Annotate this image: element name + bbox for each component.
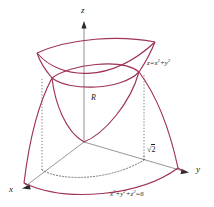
paraboloid-eq-term2-exp: 2 [168,58,170,63]
sphere-bottom-rim-arc [24,168,178,194]
sphere-right-outer-meridian [139,72,178,168]
math-figure: z x y R z=x2+y2 √2 x2+y2+z2=6 [0,0,214,207]
paraboloid-left-branch [52,78,84,142]
sphere-lower-shell-group [24,72,183,194]
y-axis-arrowhead [181,169,189,174]
y-axis-line [84,142,183,171]
sqrt-radicand: 2 [151,144,156,154]
sphere-left-outer-meridian [24,78,52,183]
intersection-circle-front [52,72,139,87]
x-axis-label: x [9,185,13,194]
paraboloid-equation-label: z=x2+y2 [147,59,170,67]
figure-canvas [0,0,214,207]
z-axis-label: z [81,6,85,15]
sphere-cap-left-meridian [37,53,52,78]
y-axis-label: y [196,165,200,174]
paraboloid-right-branch [84,72,139,142]
sphere-equation-label: x2+y2+z2=6 [110,190,144,198]
sphere-cap-back-rim [37,38,155,53]
sphere-surface-group [37,38,155,78]
sphere-eq-rhs: 6 [140,190,144,198]
x-axis-line [27,142,84,185]
sqrt2-tick-label: √2 [147,144,155,154]
axes-group [22,21,189,190]
region-label: R [91,94,96,102]
intersection-circle-back [52,64,139,78]
sphere-cap-right-meridian [139,42,155,72]
paraboloid-surface-group [52,72,139,142]
intersection-circle-group [52,64,139,87]
z-axis-arrowhead [81,21,86,29]
